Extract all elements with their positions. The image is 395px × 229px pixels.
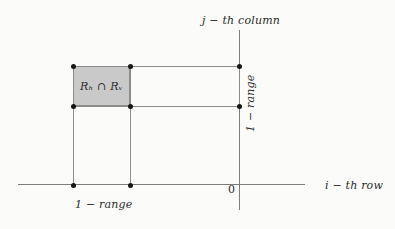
dot-baseline-left xyxy=(71,183,76,188)
horizontal-range-right-edge xyxy=(239,66,240,106)
horizontal-range-bottom-edge xyxy=(73,106,239,107)
intersection-label: Rₕ ∩ Rᵥ xyxy=(74,80,129,93)
intersection-region: Rₕ ∩ Rᵥ xyxy=(73,66,130,106)
dot-rect-bottom-left xyxy=(71,104,76,109)
row-axis-label: i − th row xyxy=(325,179,383,192)
vertical-axis xyxy=(239,30,240,210)
vertical-range-right-edge xyxy=(130,66,131,185)
dot-axis-bottom xyxy=(237,104,242,109)
dot-rect-bottom-right xyxy=(128,104,133,109)
right-range-label: 1 − range xyxy=(244,75,257,132)
bottom-range-label: 1 − range xyxy=(75,198,132,211)
dot-baseline-right xyxy=(128,183,133,188)
column-axis-label: j − th column xyxy=(202,14,280,27)
range-intersection-figure: Rₕ ∩ Rᵥ j − th column i − th row 0 1 − r… xyxy=(0,0,395,229)
dot-axis-top xyxy=(237,64,242,69)
dot-rect-top-left xyxy=(71,64,76,69)
horizontal-axis xyxy=(18,184,305,185)
origin-label: 0 xyxy=(228,183,235,196)
dot-rect-top-right xyxy=(128,64,133,69)
